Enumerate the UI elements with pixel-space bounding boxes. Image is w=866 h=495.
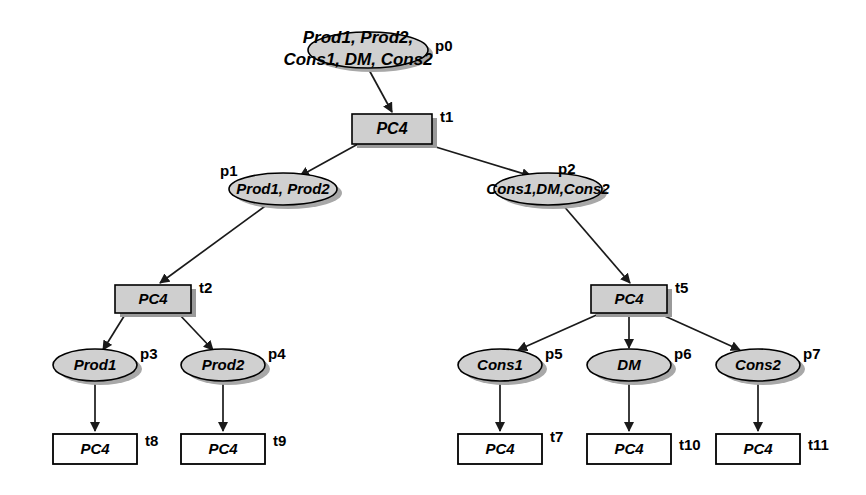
node-id-label-t9: t9: [273, 432, 286, 449]
node-id-label-t5: t5: [675, 279, 688, 296]
node-id-label-p1: p1: [220, 162, 238, 179]
node-id-label-p2: p2: [558, 160, 576, 177]
place-label-p3: Prod1: [74, 356, 117, 373]
place-label-p6: DM: [617, 356, 641, 373]
node-id-label-t2: t2: [199, 279, 212, 296]
edge-t5-to-p7: [658, 313, 740, 350]
edge-t2-to-p4: [178, 313, 213, 350]
transition-label-t11: PC4: [743, 440, 773, 457]
node-t10[interactable]: PC4t10: [587, 434, 701, 464]
transition-label-t5: PC4: [614, 290, 644, 307]
node-id-label-p0: p0: [435, 37, 453, 54]
transition-label-t7: PC4: [485, 440, 515, 457]
node-id-label-t8: t8: [145, 432, 158, 449]
place-label-p2: Cons1,DM,Cons2: [486, 180, 610, 197]
node-id-label-p4: p4: [268, 345, 286, 362]
node-id-label-t1: t1: [440, 108, 453, 125]
node-p0[interactable]: Prod1, Prod2,Cons1, DM, Cons2p0: [283, 29, 452, 72]
edge-t1-to-p2: [426, 144, 531, 176]
node-t9[interactable]: PC4t9: [181, 432, 286, 464]
petri-net-diagram: Prod1, Prod2,Cons1, DM, Cons2p0PC4t1Prod…: [0, 0, 866, 495]
node-t5[interactable]: PC4t5: [591, 279, 688, 317]
place-label-p4: Prod2: [202, 356, 245, 373]
node-id-label-p6: p6: [674, 345, 692, 362]
transition-label-t9: PC4: [208, 440, 238, 457]
nodes-layer: Prod1, Prod2,Cons1, DM, Cons2p0PC4t1Prod…: [53, 29, 829, 464]
node-p6[interactable]: DMp6: [587, 345, 692, 385]
node-p5[interactable]: Cons1p5: [458, 345, 563, 385]
node-id-label-p7: p7: [803, 345, 821, 362]
place-label-p1: Prod1, Prod2: [236, 180, 330, 197]
place-label-p5: Cons1: [477, 356, 523, 373]
edge-p2-to-t5: [562, 204, 630, 283]
node-p1[interactable]: Prod1, Prod2p1: [220, 162, 342, 209]
node-t2[interactable]: PC4t2: [115, 279, 212, 317]
node-p4[interactable]: Prod2p4: [181, 345, 286, 385]
node-p7[interactable]: Cons2p7: [716, 345, 821, 385]
diagram-canvas: Prod1, Prod2,Cons1, DM, Cons2p0PC4t1Prod…: [0, 0, 866, 495]
edge-p1-to-t2: [160, 204, 268, 283]
edge-t2-to-p3: [103, 313, 126, 350]
edge-t1-to-p1: [300, 144, 358, 176]
transition-label-t1: PC4: [376, 120, 407, 137]
edge-p0-to-t1: [368, 68, 392, 112]
place-label-p7: Cons2: [735, 356, 782, 373]
node-id-label-p5: p5: [545, 345, 563, 362]
node-id-label-p3: p3: [140, 345, 158, 362]
node-id-label-t10: t10: [679, 436, 701, 453]
node-t1[interactable]: PC4t1: [352, 108, 453, 148]
node-id-label-t11: t11: [808, 436, 829, 453]
node-id-label-t7: t7: [550, 428, 563, 445]
node-p3[interactable]: Prod1p3: [53, 345, 158, 385]
node-t8[interactable]: PC4t8: [53, 432, 158, 464]
node-t11[interactable]: PC4t11: [716, 434, 829, 464]
transition-label-t10: PC4: [614, 440, 644, 457]
node-t7[interactable]: PC4t7: [458, 428, 563, 464]
transition-label-t2: PC4: [138, 290, 168, 307]
transition-label-t8: PC4: [80, 440, 110, 457]
